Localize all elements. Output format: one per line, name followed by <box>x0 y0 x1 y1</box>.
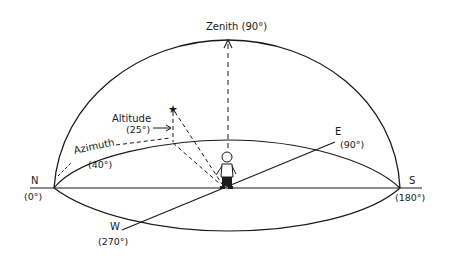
line-of-sight <box>175 112 222 184</box>
azimuth-value: (40°) <box>88 160 112 170</box>
north-label: N <box>31 176 38 186</box>
observer-figure <box>216 152 236 189</box>
east-value: (90°) <box>340 140 364 150</box>
zenith-label: Zenith (90°) <box>206 22 267 32</box>
south-label: S <box>409 176 415 186</box>
altitude-label: Altitude <box>112 114 151 124</box>
azimuth-leader <box>116 138 170 145</box>
south-value: (180°) <box>395 193 425 203</box>
north-value: (0°) <box>24 192 42 202</box>
altitude-value: (25°) <box>126 125 150 135</box>
azimuth-projection <box>173 143 220 184</box>
horizon-ellipse-front <box>54 188 400 231</box>
west-value: (270°) <box>98 237 128 247</box>
celestial-dome-diagram: ★ <box>0 0 457 263</box>
west-label: W <box>110 222 120 232</box>
east-label: E <box>335 127 341 137</box>
